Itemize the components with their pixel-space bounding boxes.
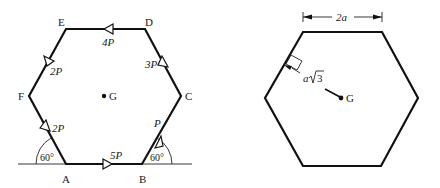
arrow-de-icon [104,24,113,34]
apothem-line-lower [325,89,340,97]
vertex-label-b: B [139,173,146,185]
angle-label-a: 60° [40,152,54,163]
centroid-dot-left [102,94,106,98]
apothem-arrow-upper-icon [284,65,292,70]
apothem-label-root: 3 [317,72,323,84]
width-dimension-label: 2a [336,11,348,23]
angle-label-b: 60° [150,152,164,163]
vertex-label-e: E [58,16,65,28]
apothem-label-a: a [303,72,309,84]
hexagon-diagrams: G A B C D E F 5P P 3P 4P 2P 2P 60° 60° 2… [0,0,440,188]
force-label-fa: 2P [52,122,65,134]
dimension-arrow-left-icon [303,15,312,20]
force-label-de: 4P [102,36,115,48]
vertex-label-c: C [185,90,192,102]
apothem-line-upper [292,68,300,73]
centroid-label-right: G [346,92,354,104]
centroid-dot-right [339,96,344,101]
force-label-ab: 5P [110,149,123,161]
vertex-label-a: A [62,173,70,185]
vertex-label-f: F [18,90,24,102]
dimension-arrow-right-icon [373,15,382,20]
force-label-cd: 3P [144,58,158,70]
arrow-fa-icon [40,120,50,131]
centroid-label-left: G [109,90,117,102]
vertex-label-d: D [145,16,153,28]
force-label-bc: P [153,117,161,129]
left-hexagon-figure: G A B C D E F 5P P 3P 4P 2P 2P 60° 60° [18,16,192,185]
force-label-ef: 2P [50,65,63,77]
right-hexagon-figure: 2a a 3 G [265,11,418,166]
